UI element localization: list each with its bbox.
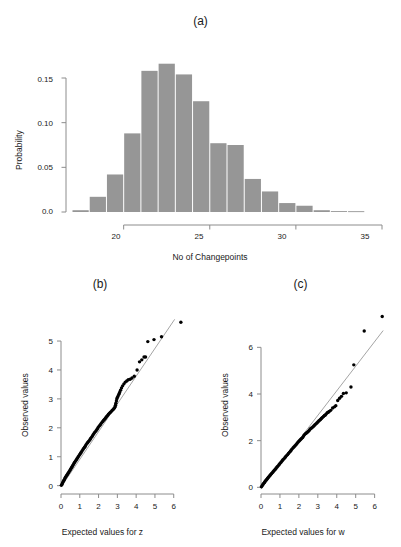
- svg-c-x-tick-label: 4: [335, 502, 340, 511]
- histogram-bar: [73, 210, 89, 212]
- svg-b-x-tick-label: 5: [153, 502, 158, 511]
- histogram-bar: [210, 143, 226, 212]
- data-point: [334, 404, 337, 407]
- svg-b-y-tick-label: 1: [49, 453, 54, 462]
- data-point: [352, 363, 355, 366]
- panel-c: (c) Observed values Expected values for …: [200, 272, 401, 547]
- svg-b-x-tick-label: 2: [96, 502, 101, 511]
- histogram-bar: [124, 133, 140, 212]
- svg-c-x-tick-label: 3: [316, 502, 321, 511]
- svg-b-y-tick-label: 2: [49, 424, 54, 433]
- data-point: [363, 329, 366, 332]
- svg-c-y-tick-label: 0: [249, 483, 254, 492]
- svg-b-y-tick-label: 5: [49, 337, 54, 346]
- panel-b: (b) Observed values Expected values for …: [0, 272, 200, 547]
- data-point: [340, 395, 343, 398]
- panel-b-plot-area: 0123450123456: [0, 272, 200, 547]
- svg-b-y-tick-label: 0: [49, 482, 54, 491]
- svg-c-x-tick-label: 5: [353, 502, 358, 511]
- histogram-bar: [90, 197, 106, 212]
- histogram-bar: [176, 74, 192, 212]
- histogram-bar: [245, 179, 261, 212]
- svg-c-x-tick-label: 1: [278, 502, 283, 511]
- histogram-bar: [193, 101, 209, 212]
- data-point: [349, 385, 352, 388]
- svg-b-reference-line: [61, 319, 175, 487]
- histogram-bar: [159, 64, 175, 212]
- svg-b-x-tick-label: 0: [59, 502, 64, 511]
- histogram-bar: [331, 211, 347, 212]
- data-point: [345, 391, 348, 394]
- histogram-bar: [107, 174, 123, 212]
- histogram-bar: [262, 191, 278, 212]
- svg-c-y-tick-label: 6: [249, 343, 254, 352]
- panel-a: (a) Probability No of Changepoints 0.0 0…: [0, 0, 401, 272]
- svg-c-x-tick-label: 0: [259, 502, 264, 511]
- data-point: [146, 340, 149, 343]
- histogram-bar: [141, 71, 157, 212]
- data-point: [133, 375, 136, 378]
- histogram-bar: [296, 206, 312, 212]
- histogram-bar: [279, 203, 295, 212]
- data-point: [179, 321, 182, 324]
- svg-b-x-tick-label: 1: [78, 502, 83, 511]
- svg-b-x-tick-label: 6: [172, 502, 177, 511]
- data-point: [381, 315, 384, 318]
- histogram-bar: [228, 145, 244, 212]
- panel-a-plot-area: [0, 0, 401, 272]
- svg-c-y-tick-label: 2: [249, 437, 254, 446]
- data-point: [144, 355, 147, 358]
- data-point: [152, 338, 155, 341]
- svg-b-x-tick-label: 3: [115, 502, 120, 511]
- svg-c-x-tick-label: 2: [297, 502, 302, 511]
- svg-b-x-tick-label: 4: [134, 502, 139, 511]
- svg-c-x-tick-label: 6: [372, 502, 377, 511]
- panel-c-plot-area: 02460123456: [200, 272, 401, 547]
- svg-b-y-tick-label: 4: [49, 366, 54, 375]
- histogram-bar: [314, 210, 330, 212]
- data-point: [140, 358, 143, 361]
- data-point: [135, 368, 138, 371]
- histogram-bar: [348, 211, 364, 212]
- data-point: [160, 335, 163, 338]
- data-point: [342, 392, 345, 395]
- svg-c-y-tick-label: 4: [249, 390, 254, 399]
- svg-b-y-tick-label: 3: [49, 395, 54, 404]
